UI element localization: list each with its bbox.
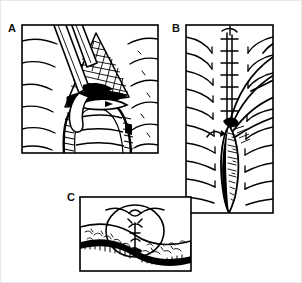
panel-label-b: B	[172, 23, 180, 34]
panel-c	[80, 197, 191, 271]
figure-illustration	[1, 1, 302, 283]
panel-label-a: A	[8, 23, 16, 34]
panel-label-c: C	[67, 192, 75, 203]
figure-container: A B C	[0, 0, 302, 283]
knot-base-shadow	[128, 248, 142, 254]
arch-dark-wedge	[125, 123, 132, 135]
